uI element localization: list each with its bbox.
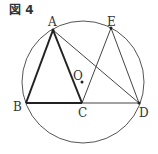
label-b: B — [13, 100, 22, 114]
segment-ab — [26, 30, 53, 103]
label-c: C — [78, 106, 87, 120]
label-e: E — [107, 15, 116, 29]
segment-ac — [53, 30, 82, 103]
segment-ce — [82, 28, 111, 103]
geometry-diagram: A E B C D O — [0, 0, 158, 154]
label-o: O — [73, 69, 83, 83]
label-d: D — [139, 106, 149, 120]
label-a: A — [47, 15, 57, 29]
point-d — [138, 102, 141, 105]
